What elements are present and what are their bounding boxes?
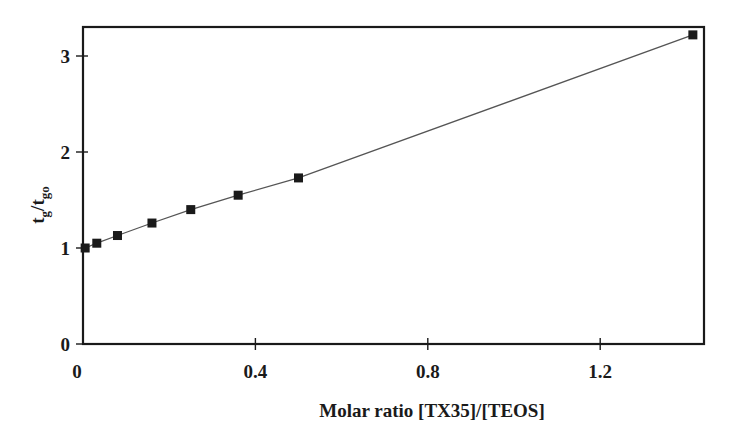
x-tick-label: 0.8 [416,361,440,382]
data-series [81,30,698,252]
y-tick-label: 3 [61,46,71,67]
data-point-marker [688,30,697,39]
x-tick-label: 1.2 [588,361,612,382]
data-point-marker [92,239,101,248]
y-tick-label: 0 [61,334,71,355]
y-axis-title: tg/tgo [27,186,52,223]
plot-frame [83,27,704,344]
x-tick-label: 0 [72,361,82,382]
y-tick-label: 2 [61,142,71,163]
data-point-marker [81,244,90,253]
line-chart: 00.40.81.2 0123 Molar ratio [TX35]/[TEOS… [0,0,732,443]
series-line [85,35,693,248]
y-tick-label: 1 [61,238,71,259]
x-axis-title: Molar ratio [TX35]/[TEOS] [319,400,545,421]
data-point-marker [294,173,303,182]
x-tick-label: 0.4 [244,361,268,382]
data-point-marker [234,191,243,200]
data-point-marker [147,219,156,228]
data-point-marker [186,205,195,214]
data-point-marker [113,231,122,240]
